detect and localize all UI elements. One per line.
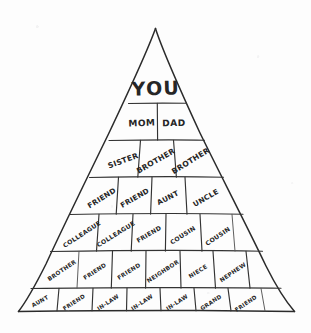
cell-label-friend-r7-0: FRIEND [62,293,86,312]
row6-divider-1 [77,251,79,288]
cell-label-colleague-1: COLLEAGUE [95,219,136,248]
row7-divider-6 [228,288,231,311]
cell-label-friend-r4-1: FRIEND [119,186,151,210]
row4-divider-2 [151,177,152,214]
relationship-pyramid-canvas: MOM DAD YOU SISTER BROTHER BROTHER FRIEN… [0,0,311,333]
cell-label-mom: MOM [128,118,155,129]
cell-label-brother-1: BROTHER [135,146,177,175]
apex-label-you: YOU [130,76,180,99]
cell-label-inlaw-2: IN-LAW [165,293,189,311]
cell-label-friend-r4-0: FRIEND [86,186,118,210]
cell-label-uncle: UNCLE [191,187,220,209]
row5-divider-5 [232,214,235,251]
cell-label-brother-2: BROTHER [170,146,211,176]
cell-label-nephew: NEPHEW [219,261,248,283]
row5-divider-3 [165,214,166,251]
row-separator-4 [70,214,243,215]
row6-divider-4 [180,251,181,288]
cell-label-neighbor: NEIGHBOR [146,259,180,284]
row-separator-6 [31,288,281,289]
cell-row2-0: MOM [128,118,155,129]
cell-label-aunt: AUNT [155,188,180,207]
cell-row2-1: DAD [162,118,186,128]
cell-label-aunt-r7: AUNT [31,294,50,308]
triangle-base-edge [19,311,295,312]
cell-label-friend-r7-1: FRIEND [234,294,258,313]
row4-divider-1 [116,177,118,214]
cell-label-grand: GRAND [199,293,222,311]
row6-divider-2 [111,251,112,288]
cell-label-friend-r6-0: FRIEND [82,262,107,281]
cell-label-cousin-1: COUSIN [204,225,232,247]
row7-divider-5 [194,288,196,310]
cell-label-friend-r5: FRIEND [135,224,162,244]
row7-divider-4 [160,288,161,310]
row4-divider-3 [185,177,187,214]
row6-divider-6 [246,251,250,288]
pyramid-diagram: MOM DAD YOU SISTER BROTHER BROTHER FRIEN… [0,0,311,333]
row7-divider-2 [92,288,93,310]
cell-label-inlaw-0: IN-LAW [96,293,120,311]
row7-divider-7 [261,288,265,311]
row5-divider-4 [200,214,202,251]
cell-label-cousin-0: COUSIN [169,224,197,245]
row6-divider-5 [213,251,216,288]
cell-label-niece: NIECE [188,263,209,279]
cell-label-friend-r6-1: FRIEND [116,262,141,281]
cell-label-brother-r6: BROTHER [46,258,77,282]
row7-divider-1 [57,288,59,311]
cell-label-inlaw-1: IN-LAW [130,293,154,311]
row-separator-2 [109,140,205,141]
row-separator-3 [90,177,224,178]
row7-divider-3 [127,288,128,310]
cell-label-dad: DAD [162,118,186,128]
row-separator-5 [51,251,263,252]
